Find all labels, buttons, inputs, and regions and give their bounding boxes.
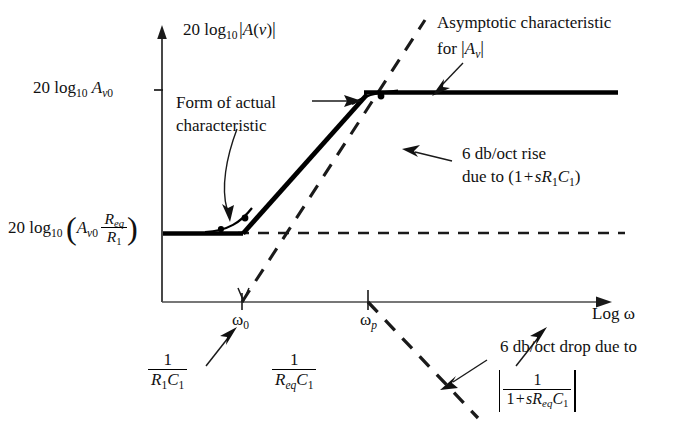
y-axis-arrowhead xyxy=(157,25,167,39)
x-tick-label-omegap: ωp xyxy=(360,310,377,330)
annotation-drop-line1-wrap: 6 db/oct drop due to xyxy=(500,337,637,357)
y-tick-upper-label: 20 log10 Av0 xyxy=(33,78,113,98)
annotation-asymptotic-line2: for |Av| xyxy=(437,35,611,61)
annotation-rise: 6 db/oct rise due to (1 + sR1C1) xyxy=(462,143,580,189)
bode-plot-figure: 20 log10 |A(v)| 20 log10 Av0 20 log10 (A… xyxy=(0,0,676,440)
annotation-actual-line1: Form of actual xyxy=(176,92,276,115)
annotation-asymptotic-math: |Av| xyxy=(461,39,484,58)
x-tick-value-omega0: 1R1C1 xyxy=(148,352,187,390)
curve-point-dot-lower-b xyxy=(242,215,249,222)
curve-point-dot-lower-a xyxy=(218,226,224,232)
leader-line-drop xyxy=(453,360,487,382)
rising-asymptote-dashed xyxy=(242,20,425,302)
y-axis-label: 20 log10 |A(v)| xyxy=(183,18,276,40)
annotation-asymptotic-line1: Asymptotic characteristic xyxy=(437,12,611,35)
leader-omega0-value xyxy=(206,327,237,366)
leader-rise xyxy=(402,145,452,161)
abs-bar-right xyxy=(574,370,575,412)
y-tick-lower-label: 20 log10 (Av0 ReqR1) xyxy=(8,212,138,247)
annotation-rise-line1: 6 db/oct rise xyxy=(462,143,580,166)
annotation-actual-characteristic: Form of actual characteristic xyxy=(176,92,276,138)
leader-drop xyxy=(440,360,487,390)
annotation-drop-line1: 6 db/oct drop due to xyxy=(500,337,637,356)
annotation-asymptotic-characteristic: Asymptotic characteristic for |Av| xyxy=(437,12,611,61)
annotation-asymptotic-for-word: for xyxy=(437,39,457,58)
leader-curve-actual-bottom xyxy=(224,129,237,209)
annotation-rise-line2: due to (1 + sR1C1) xyxy=(462,166,580,189)
falling-asymptote-dashed xyxy=(368,302,478,418)
annotation-drop-abs: 11 + sReqC1 xyxy=(496,370,579,412)
x-axis-label: Log ω xyxy=(592,304,635,324)
curve-point-dot-upper xyxy=(378,93,385,100)
leader-arrow-actual-bottom xyxy=(222,204,234,222)
leader-line-asymptotic xyxy=(441,63,463,86)
x-tick-label-omega0: ω0 xyxy=(232,310,249,330)
annotation-drop-math: 11 + sReqC1 xyxy=(496,370,579,412)
leader-line-rise xyxy=(415,152,452,161)
leader-line-omega0 xyxy=(206,338,228,366)
annotation-actual-line2: characteristic xyxy=(176,115,276,138)
x-tick-value-omegap: 1ReqC1 xyxy=(272,352,316,390)
leader-arrow-rise xyxy=(402,145,420,157)
abs-bar-left xyxy=(499,370,500,412)
